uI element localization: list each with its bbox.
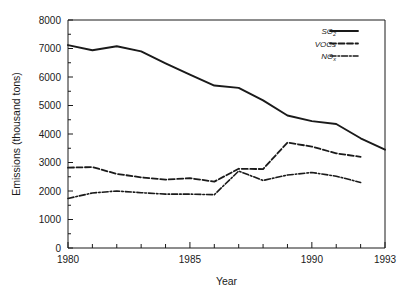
y-tick-label: 2000: [39, 186, 62, 197]
chart-background: [0, 0, 411, 296]
y-tick-label: 5000: [39, 100, 62, 111]
x-tick-label: 1993: [374, 254, 397, 265]
x-axis-title: Year: [216, 275, 238, 287]
y-axis-tick-labels: 010002000300040005000600070008000: [39, 15, 62, 254]
chart-canvas: 010002000300040005000600070008000 198019…: [0, 0, 411, 296]
y-tick-label: 4000: [39, 129, 62, 140]
y-tick-label: 8000: [39, 15, 62, 26]
y-tick-label: 6000: [39, 72, 62, 83]
y-tick-label: 3000: [39, 157, 62, 168]
x-tick-label: 1985: [179, 254, 202, 265]
y-axis-title: Emissions (thousand tons): [10, 72, 22, 196]
x-tick-label: 1980: [57, 254, 80, 265]
y-tick-label: 0: [55, 243, 61, 254]
x-tick-label: 1990: [301, 254, 324, 265]
y-tick-label: 1000: [39, 214, 62, 225]
y-tick-label: 7000: [39, 43, 62, 54]
emissions-line-chart: 010002000300040005000600070008000 198019…: [0, 0, 411, 296]
